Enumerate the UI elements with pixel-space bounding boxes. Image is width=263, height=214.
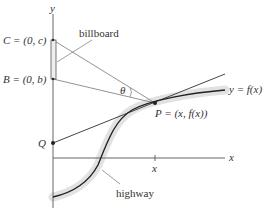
theta-arc [130,88,132,98]
point-q [51,141,55,145]
label-p: P = (x, f(x)) [154,107,208,120]
billboard-diagram: y x x C = (0, c) B = (0, b) Q P = (x, f(… [0,0,263,214]
highway-leader [102,170,120,184]
label-highway: highway [116,187,154,199]
point-b [52,78,54,80]
point-p [153,101,157,105]
x-axis-label: x [228,151,234,163]
billboard-leader [57,40,92,62]
label-curve: y = f(x) [228,83,262,96]
point-c [52,39,54,41]
label-b: B = (0, b) [3,73,47,86]
label-q: Q [38,137,46,149]
x-tick-label: x [151,162,157,174]
diagram-svg: y x x C = (0, c) B = (0, b) Q P = (x, f(… [0,0,263,214]
y-axis-label: y [49,2,55,14]
label-theta: θ [120,84,126,96]
sight-line-b [53,79,155,103]
billboard [51,40,56,79]
sight-line-c [53,40,155,103]
label-c: C = (0, c) [3,34,47,47]
label-billboard: billboard [79,27,119,39]
